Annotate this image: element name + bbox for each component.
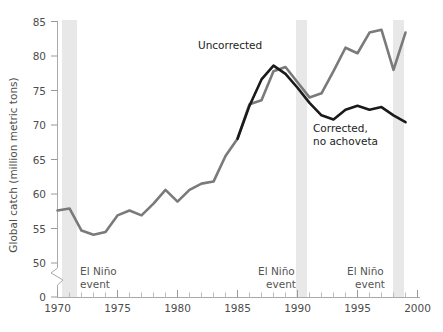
y-tick-label-85: 85: [33, 16, 46, 28]
el-nino-band-1972: [62, 20, 77, 297]
x-tick-label-2000: 2000: [404, 302, 431, 314]
y-tick-label-60: 60: [33, 188, 46, 200]
el-nino-label-1-line2: event: [80, 278, 110, 290]
y-tick-label-55: 55: [33, 223, 46, 235]
line-chart-svg: 85 80 75 70 65 60 55 50 0 Global catch (…: [0, 0, 443, 332]
el-nino-label-3-line2: event: [355, 278, 385, 290]
el-nino-label-2-line2: event: [266, 278, 296, 290]
x-tick-label-1990: 1990: [284, 302, 311, 314]
y-tick-label-80: 80: [33, 50, 46, 62]
x-tick-label-1975: 1975: [104, 302, 131, 314]
el-nino-label-3-line1: El Niño: [347, 265, 384, 277]
y-tick-label-50: 50: [33, 257, 46, 269]
y-tick-label-70: 70: [33, 119, 46, 131]
chart-figure: 85 80 75 70 65 60 55 50 0 Global catch (…: [0, 0, 443, 332]
series-label-corrected-line1: Corrected,: [313, 122, 368, 134]
y-tick-label-65: 65: [33, 154, 46, 166]
el-nino-label-1-line1: El Niño: [80, 265, 117, 277]
x-tick-label-1980: 1980: [164, 302, 191, 314]
el-nino-label-2-line1: El Niño: [258, 265, 295, 277]
x-axis-major-ticks: [58, 290, 418, 298]
x-tick-label-1970: 1970: [44, 302, 71, 314]
y-axis-ticks: [51, 22, 58, 298]
x-tick-label-1985: 1985: [224, 302, 251, 314]
x-tick-label-1995: 1995: [344, 302, 371, 314]
y-axis-title: Global catch (million metric tons): [7, 77, 19, 252]
el-nino-band-1997: [393, 20, 404, 297]
series-label-uncorrected: Uncorrected: [198, 39, 262, 51]
el-nino-band-1991: [296, 20, 307, 297]
el-nino-bands: [62, 20, 404, 297]
y-tick-label-75: 75: [33, 85, 46, 97]
series-label-corrected-line2: no achoveta: [313, 135, 378, 147]
